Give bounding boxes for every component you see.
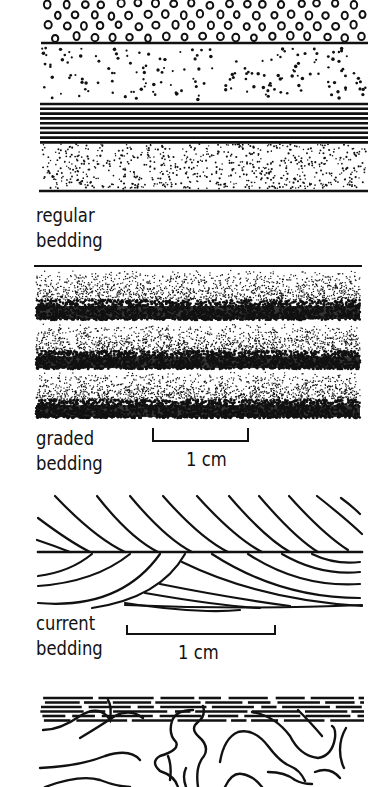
graded-label-line1: graded (36, 426, 103, 451)
graded-bedding-label: graded bedding (36, 426, 103, 476)
current-bedding-illustration (0, 480, 379, 615)
graded-label-line2: bedding (36, 451, 103, 476)
current-bedding-label: current bedding (36, 611, 103, 661)
graded-scale-label: 1 cm (186, 447, 227, 471)
convolute-bedding-panel (0, 676, 379, 787)
current-scale-label: 1 cm (178, 640, 219, 664)
graded-scale-bar (150, 427, 252, 445)
graded-bedding-panel (0, 262, 379, 422)
regular-bedding-panel (0, 0, 379, 195)
regular-label-line1: regular (36, 203, 103, 228)
regular-label-line2: bedding (36, 228, 103, 253)
current-scale-bar (124, 624, 279, 638)
convolute-bedding-illustration (0, 676, 379, 787)
regular-bedding-illustration (0, 0, 379, 195)
current-label-line1: current (36, 611, 103, 636)
graded-bedding-illustration (0, 262, 379, 422)
regular-bedding-label: regular bedding (36, 203, 103, 253)
current-bedding-panel (0, 480, 379, 615)
current-label-line2: bedding (36, 636, 103, 661)
